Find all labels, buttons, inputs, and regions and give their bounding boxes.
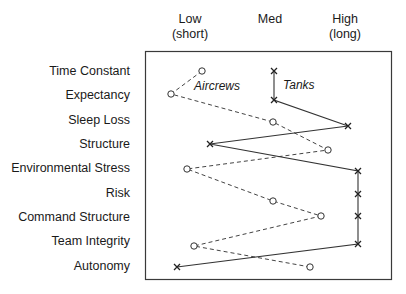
tanks-markers (174, 68, 361, 270)
tanks-line (177, 71, 358, 267)
tanks-series-label: Tanks (283, 78, 315, 92)
circle-marker-icon (168, 91, 174, 97)
circle-marker-icon (270, 198, 276, 204)
circle-marker-icon (191, 243, 197, 249)
profile-chart: Aircrews Tanks (0, 0, 406, 294)
circle-marker-icon (307, 264, 313, 270)
aircrews-markers (168, 68, 331, 270)
aircrews-series-label: Aircrews (193, 79, 240, 93)
circle-marker-icon (318, 213, 324, 219)
circle-marker-icon (184, 166, 190, 172)
circle-marker-icon (199, 68, 205, 74)
circle-marker-icon (270, 119, 276, 125)
circle-marker-icon (325, 147, 331, 153)
aircrews-line (171, 71, 328, 267)
